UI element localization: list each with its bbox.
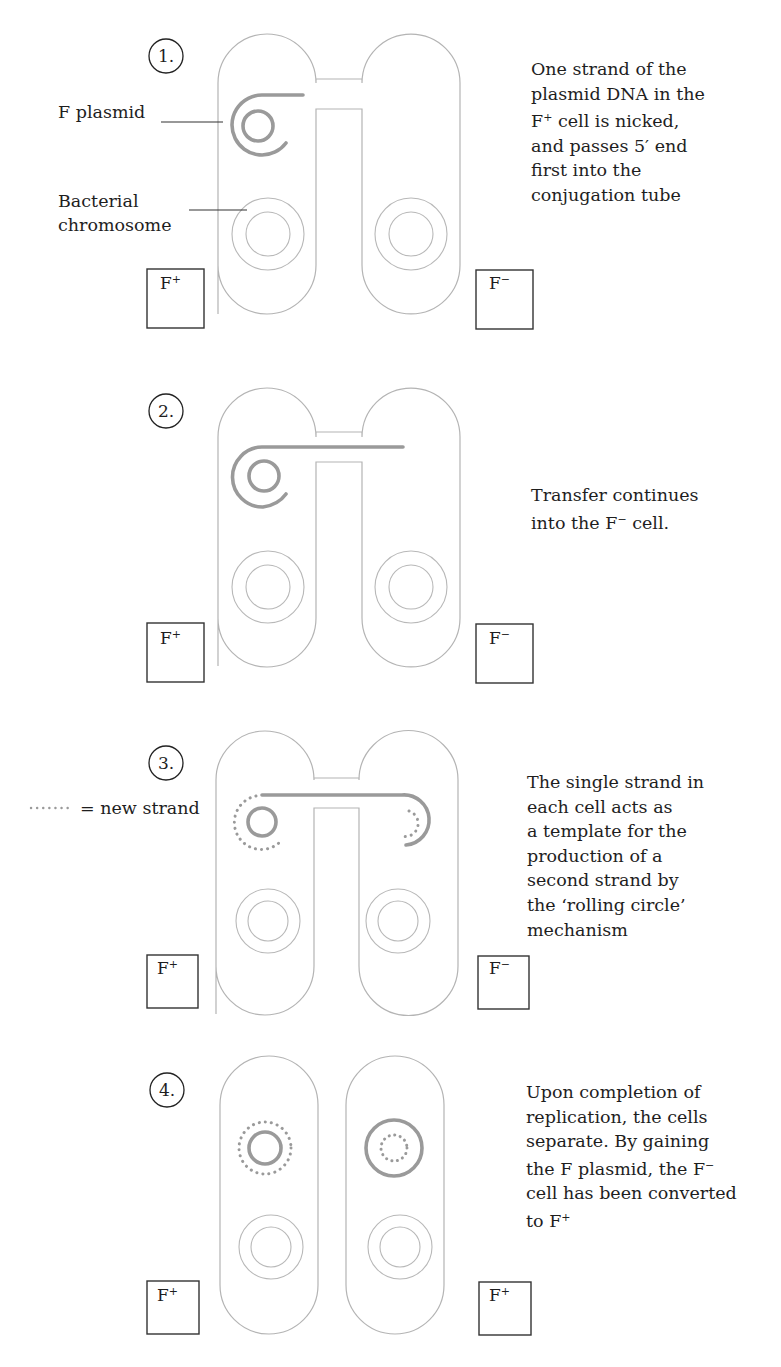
description-line: conjugation tube xyxy=(531,183,705,208)
conjugating-cells-outline xyxy=(218,388,460,667)
description-line: the F plasmid, the F− xyxy=(526,1154,737,1182)
plasmid-new-strand xyxy=(239,1122,291,1174)
bacterial-chromosome-inner xyxy=(380,1227,420,1267)
panel-1-graphics xyxy=(147,34,533,329)
panel-4-graphics xyxy=(147,1056,531,1335)
bacterial-chromosome-outer xyxy=(236,889,300,953)
bacterial-chromosome-inner xyxy=(251,1227,291,1267)
step-2-description: Transfer continues into the F− cell. xyxy=(531,483,699,535)
bacterial-chromosome-outer xyxy=(375,198,447,270)
bacterial-chromosome-inner xyxy=(389,212,433,256)
cell-type-label: F+ xyxy=(160,628,181,648)
description-line: One strand of the xyxy=(531,57,705,82)
bacterial-chromosome-outer xyxy=(375,551,447,623)
step-3-description: The single strand in each cell acts as a… xyxy=(527,770,704,942)
conjugating-cells-outline xyxy=(216,731,458,1016)
step-1-description: One strand of the plasmid DNA in the F+ … xyxy=(531,57,705,208)
bacterial-chromosome-inner xyxy=(246,565,290,609)
plasmid-new-strand xyxy=(381,1135,407,1161)
bacterial-chromosome-label-line2: chromosome xyxy=(58,213,172,238)
plasmid-inner-strand xyxy=(243,111,273,141)
description-line: Upon completion of xyxy=(526,1080,737,1105)
new-strand-arc-right xyxy=(401,811,418,837)
step-4-description: Upon completion of replication, the cell… xyxy=(526,1080,737,1234)
description-line: separate. By gaining xyxy=(526,1129,737,1154)
bacterial-chromosome-outer xyxy=(368,1215,432,1279)
panel-2-graphics xyxy=(147,388,533,683)
cell-type-label: F+ xyxy=(157,1285,178,1305)
cell-type-label: F− xyxy=(489,958,510,978)
bacterial-chromosome-inner xyxy=(389,565,433,609)
description-line: The single strand in xyxy=(527,770,704,795)
description-line: plasmid DNA in the xyxy=(531,82,705,107)
description-line: into the F− cell. xyxy=(531,508,699,536)
f-plus-cell-left xyxy=(220,1056,318,1334)
conjugating-cells-outline xyxy=(218,34,460,314)
description-line: Transfer continues xyxy=(531,483,699,508)
step-number: 1. xyxy=(149,39,183,73)
description-line: a template for the xyxy=(527,819,704,844)
description-line: production of a xyxy=(527,844,704,869)
bacterial-chromosome-label-line1: Bacterial xyxy=(58,189,138,214)
description-line: F+ cell is nicked, xyxy=(531,106,705,134)
new-strand-arc xyxy=(234,796,281,849)
step-number: 4. xyxy=(150,1073,184,1107)
plasmid-inner-strand xyxy=(249,461,279,491)
bacterial-chromosome-inner xyxy=(246,212,290,256)
bacterial-chromosome-inner xyxy=(378,901,418,941)
cell-type-label: F+ xyxy=(160,273,181,293)
cell-type-label: F+ xyxy=(489,1285,510,1305)
description-line: mechanism xyxy=(527,918,704,943)
bacterial-chromosome-inner xyxy=(248,901,288,941)
plasmid-template-strand xyxy=(249,1132,281,1164)
description-line: first into the xyxy=(531,158,705,183)
description-line: the ‘rolling circle’ xyxy=(527,893,704,918)
f-plasmid-label: F plasmid xyxy=(58,100,145,125)
description-line: and passes 5′ end xyxy=(531,134,705,159)
bacterial-chromosome-outer xyxy=(366,889,430,953)
description-line: cell has been converted xyxy=(526,1181,737,1206)
legend-new-strand-label: = new strand xyxy=(80,796,200,821)
bacterial-chromosome-outer xyxy=(232,551,304,623)
transferring-strand xyxy=(232,447,403,507)
cell-type-label: F− xyxy=(489,628,510,648)
cell-type-label: F+ xyxy=(157,958,178,978)
f-plus-cell-right xyxy=(346,1056,444,1334)
bacterial-chromosome-outer xyxy=(232,198,304,270)
panel-3-graphics xyxy=(31,731,529,1016)
bacterial-chromosome-outer xyxy=(239,1215,303,1279)
description-line: replication, the cells xyxy=(526,1105,737,1130)
step-number: 3. xyxy=(149,746,183,780)
plasmid-template-strand xyxy=(366,1120,422,1176)
description-line: each cell acts as xyxy=(527,795,704,820)
template-strand-circle xyxy=(248,808,276,836)
step-number: 2. xyxy=(149,394,183,428)
cell-type-label: F− xyxy=(489,273,510,293)
description-line: second strand by xyxy=(527,868,704,893)
description-line: to F+ xyxy=(526,1206,737,1234)
